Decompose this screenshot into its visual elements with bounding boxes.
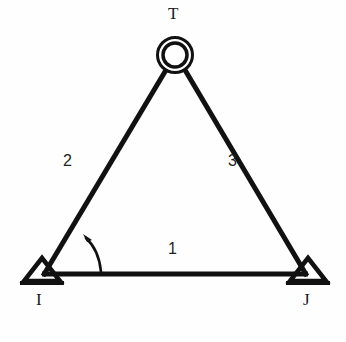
angle-arc-at-node-i <box>86 238 101 272</box>
member-label-3: 3 <box>228 152 237 170</box>
node-label-t: T <box>168 4 179 24</box>
node-j-support-triangle <box>290 258 326 281</box>
member-label-2: 2 <box>63 152 72 170</box>
member-3-line <box>185 70 307 276</box>
angle-arrowhead-icon <box>83 234 92 242</box>
truss-canvas <box>0 0 346 342</box>
node-label-j: J <box>303 290 310 310</box>
node-t-inner-ring <box>163 43 187 67</box>
member-2-line <box>43 70 166 276</box>
node-i-support-triangle <box>24 258 60 281</box>
truss-diagram: T I J 1 2 3 <box>0 0 346 342</box>
member-label-1: 1 <box>168 240 177 258</box>
node-label-i: I <box>36 290 42 310</box>
